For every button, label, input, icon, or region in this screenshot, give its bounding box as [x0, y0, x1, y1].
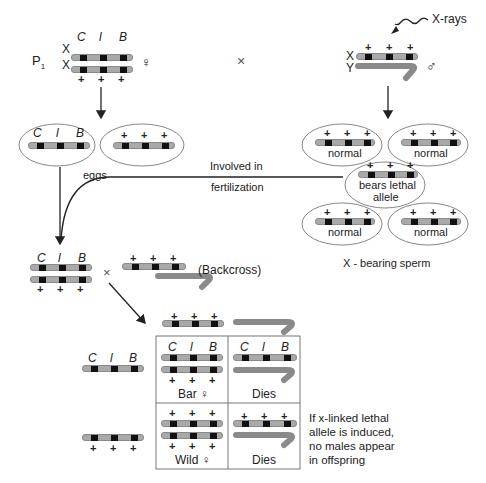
row-chromosome-cib — [82, 365, 144, 372]
allele-plus: + — [77, 284, 83, 295]
cib-lethal-screen-diagram: P1 X X C l B + + + ♀ × X-rays + + + X Y … — [0, 0, 486, 483]
allele-plus: + — [169, 408, 175, 419]
allele-plus: + — [365, 42, 371, 53]
female-x-label-2: X — [62, 59, 70, 71]
y-chromosome-parent — [358, 66, 414, 78]
allele-label: l — [190, 341, 193, 353]
allele-label: C — [240, 341, 249, 353]
allele-plus: + — [410, 128, 416, 139]
row-chromosome-wild — [82, 434, 144, 441]
note-line: no males appear — [309, 441, 395, 453]
fertilization-curve — [61, 177, 343, 240]
backcross-female-chromosome-cib — [30, 264, 92, 271]
allele-plus: + — [98, 74, 104, 85]
arrow-to-offspring — [109, 283, 145, 323]
allele-plus: + — [450, 207, 456, 218]
generation-label: P1 — [32, 54, 45, 71]
allele-plus: + — [430, 207, 436, 218]
egg-chromosome-cib — [28, 142, 90, 149]
allele-label: B — [209, 341, 217, 353]
eggs-label: eggs — [83, 170, 107, 181]
allele-label: C — [37, 252, 46, 264]
y-chromosome-cell-dies-1 — [236, 370, 292, 380]
male-x-chromosome — [356, 53, 418, 60]
sperm-label-normal: normal — [328, 148, 362, 159]
sperm-label-normal: normal — [414, 148, 448, 159]
allele-plus: + — [189, 441, 195, 452]
fertilization-label-1: Involved in — [210, 161, 263, 172]
sperm-chromosome-lethal — [358, 171, 418, 178]
note-line: allele is induced, — [309, 427, 394, 439]
allele-plus: + — [407, 42, 413, 53]
female-x-chromosome-wild — [71, 66, 133, 73]
allele-label: B — [76, 127, 84, 139]
sperm-chromosome — [401, 139, 461, 146]
female-x-label-1: X — [62, 43, 70, 55]
allele-plus: + — [324, 207, 330, 218]
sperm-chromosome — [401, 218, 461, 225]
allele-plus: + — [410, 207, 416, 218]
allele-plus: + — [121, 130, 127, 141]
allele-plus: + — [141, 130, 147, 141]
allele-plus: + — [364, 207, 370, 218]
header-x-chromosome — [162, 320, 224, 327]
sperm-label-lethal: bears lethal — [359, 180, 416, 191]
backcross-male-x-chromosome — [122, 263, 186, 270]
allele-label: l — [262, 341, 265, 353]
note-line: If x-linked lethal — [309, 413, 389, 425]
allele-plus: + — [189, 375, 195, 386]
allele-plus: + — [169, 441, 175, 452]
allele-plus: + — [209, 441, 215, 452]
allele-label: l — [99, 31, 102, 43]
note-line: in offspring — [309, 455, 365, 467]
xray-label: X-rays — [432, 13, 467, 25]
backcross-female-chromosome-wild — [30, 276, 92, 283]
male-symbol-icon: ♂ — [426, 59, 437, 73]
allele-label: C — [168, 341, 177, 353]
allele-plus: + — [367, 160, 373, 171]
cell-label-wild-female: Wild ♀ — [175, 454, 211, 466]
allele-plus: + — [189, 408, 195, 419]
cell-label-bar-female: Bar ♀ — [178, 388, 209, 400]
allele-plus: + — [364, 128, 370, 139]
allele-plus: + — [450, 128, 456, 139]
allele-plus: + — [407, 160, 413, 171]
cell-label-dies: Dies — [252, 454, 276, 466]
cell-chromosome — [161, 366, 223, 373]
allele-label: C — [33, 127, 42, 139]
allele-label: l — [58, 252, 61, 264]
egg-chromosome-wild — [113, 142, 175, 149]
allele-plus: + — [78, 74, 84, 85]
sperm-label-lethal-2: allele — [373, 192, 399, 203]
sperm-label-normal: normal — [328, 227, 362, 238]
allele-label: B — [281, 341, 289, 353]
cell-chromosome — [233, 420, 297, 427]
allele-label: B — [78, 252, 86, 264]
allele-label: l — [56, 127, 59, 139]
female-symbol-icon: ♀ — [141, 55, 152, 69]
sperm-label-normal: normal — [414, 227, 448, 238]
allele-plus: + — [110, 443, 116, 454]
allele-plus: + — [344, 128, 350, 139]
sperm-group-label: X - bearing sperm — [343, 258, 430, 269]
allele-plus: + — [386, 42, 392, 53]
male-y-label: Y — [346, 62, 354, 74]
allele-plus: + — [209, 408, 215, 419]
y-chromosome-column-header — [236, 322, 292, 332]
allele-label: B — [119, 31, 127, 43]
allele-plus: + — [57, 284, 63, 295]
cell-chromosome — [233, 354, 297, 361]
sperm-chromosome — [315, 218, 375, 225]
sperm-chromosome — [315, 139, 375, 146]
y-chromosome-backcross — [158, 276, 210, 287]
backcross-label: (Backcross) — [198, 264, 261, 276]
allele-plus: + — [344, 207, 350, 218]
female-x-chromosome-cib — [71, 54, 133, 61]
cell-chromosome — [161, 354, 223, 361]
allele-plus: + — [90, 443, 96, 454]
cell-label-dies: Dies — [252, 388, 276, 400]
cross-symbol: × — [103, 266, 111, 279]
allele-plus: + — [324, 128, 330, 139]
allele-plus: + — [130, 443, 136, 454]
allele-label: C — [77, 31, 86, 43]
